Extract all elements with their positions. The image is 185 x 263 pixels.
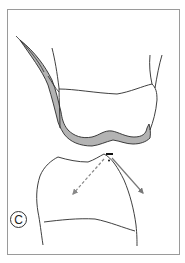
dental-occlusion-diagram bbox=[0, 0, 185, 263]
upper-tooth-root-right-a bbox=[150, 55, 152, 84]
figure-frame bbox=[8, 10, 180, 255]
lower-tooth-cej bbox=[44, 219, 135, 231]
contact-mark bbox=[106, 153, 113, 155]
contact-point-marker bbox=[108, 160, 110, 162]
upper-tooth-root-right-b bbox=[155, 55, 162, 88]
panel-label: C bbox=[10, 211, 27, 228]
upper-tooth-crown-top bbox=[59, 84, 152, 94]
force-arrow-dashed bbox=[73, 159, 104, 194]
upper-tooth-right-wall bbox=[150, 84, 157, 130]
lower-tooth bbox=[37, 154, 137, 246]
restoration-layer bbox=[20, 40, 150, 146]
